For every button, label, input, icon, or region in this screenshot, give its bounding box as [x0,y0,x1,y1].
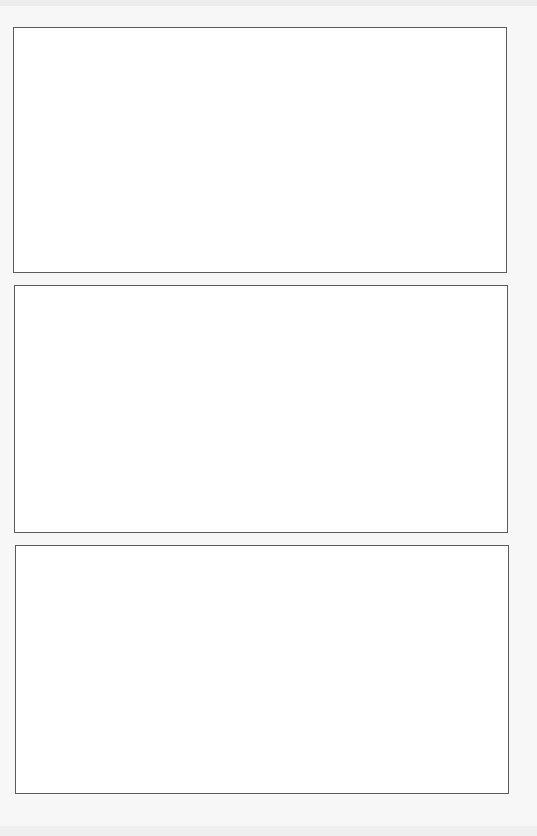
panel-frame-3 [15,545,509,794]
bottom-edge-band [0,826,537,836]
panel-frame-2 [14,285,508,533]
panel-frame-1 [13,27,507,273]
top-edge-band [0,0,537,6]
